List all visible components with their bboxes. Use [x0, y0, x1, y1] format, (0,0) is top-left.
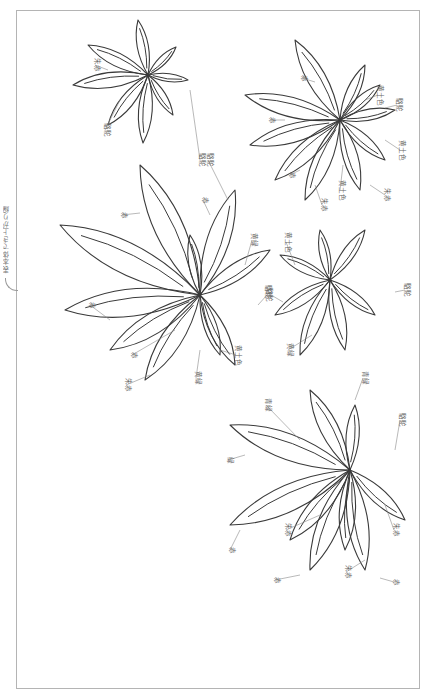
color-label: 駱駝: [198, 153, 207, 167]
petal-vein: [153, 305, 193, 367]
flower-middle-left: 赤赤駱駝黄緑駱駝赤赤朱赤黄緑黄土色: [60, 153, 274, 392]
petal-vein: [335, 284, 368, 310]
leader-line: [370, 185, 385, 195]
petal-vein: [357, 476, 397, 513]
color-label: 青緑: [361, 371, 370, 385]
color-label: 黄土色: [234, 345, 243, 366]
color-label: 黄緑: [194, 371, 203, 385]
petal-vein: [334, 238, 360, 275]
petal-vein: [332, 288, 343, 339]
color-label: 朱赤: [284, 523, 293, 537]
color-label: 朱赤: [124, 378, 133, 392]
color-label: 駱駝: [403, 283, 412, 297]
petal-outline: [136, 20, 149, 75]
leader-line: [385, 140, 400, 150]
color-label: 朱赤: [392, 523, 401, 537]
color-label: 朱赤: [344, 565, 353, 579]
petal-vein: [143, 83, 148, 133]
flower-middle-right: 黄土色駱駝駱駝黄緑: [264, 230, 412, 357]
color-label: 駱駝: [264, 285, 273, 299]
petal-vein: [345, 125, 378, 154]
color-label: 黄緑: [286, 343, 295, 357]
petal-vein: [259, 99, 328, 117]
flower-top-right: 赤赤赤黄土色駱駝黄土色黄土色朱赤朱赤: [245, 40, 407, 212]
color-label: 赤: [130, 352, 138, 359]
color-label: 駱駝: [395, 98, 404, 112]
petal-vein: [351, 415, 355, 462]
color-label: 赤: [88, 302, 96, 309]
color-label: 朱赤: [93, 58, 102, 72]
color-label: 緑: [226, 457, 235, 464]
petal-vein: [85, 296, 184, 308]
color-label: 赤: [273, 577, 281, 584]
color-label: 黄土色: [376, 85, 385, 106]
flower-bottom: 青緑青緑緑駱駝赤朱赤朱赤赤朱赤赤: [226, 371, 407, 586]
color-label: 黄土色: [398, 140, 407, 161]
color-label: 青緑: [264, 398, 273, 412]
color-label: 黄土色: [338, 180, 347, 201]
color-label: 赤: [300, 75, 308, 82]
color-label: 駱駝: [103, 123, 112, 137]
petal-vein: [285, 127, 332, 171]
color-label: 赤: [268, 117, 276, 124]
color-label: 駱駝: [398, 413, 407, 427]
color-label: 黄緑: [250, 233, 259, 247]
petal-outline: [230, 425, 350, 470]
petal-outline: [73, 72, 148, 89]
petal-vein: [151, 51, 171, 71]
petal-outline: [346, 470, 369, 570]
petal-vein: [322, 238, 329, 275]
color-label: 赤: [228, 547, 236, 554]
color-label: 赤: [201, 197, 209, 204]
color-label: 赤: [392, 579, 400, 586]
color-label: 朱赤: [320, 198, 329, 212]
leader-line: [190, 90, 200, 160]
flower-pattern-diagram: 朱赤駱駝駱駝赤赤赤黄土色駱駝黄土色黄土色朱赤朱赤赤赤駱駝黄緑駱駝赤赤朱赤黄緑黄土…: [0, 0, 429, 694]
color-label: 黄土色: [284, 232, 293, 253]
petal-vein: [208, 257, 259, 290]
color-label: 赤: [120, 212, 128, 219]
color-label: 赤: [288, 172, 296, 179]
leader-line: [380, 578, 394, 582]
petal-outline: [346, 405, 359, 470]
color-label: 駱駝: [206, 153, 215, 167]
petal-outline: [245, 94, 340, 121]
color-label: 朱赤: [383, 188, 392, 202]
petal-vein: [151, 80, 169, 109]
flower-top-left: 朱赤駱駝駱駝: [73, 20, 207, 167]
